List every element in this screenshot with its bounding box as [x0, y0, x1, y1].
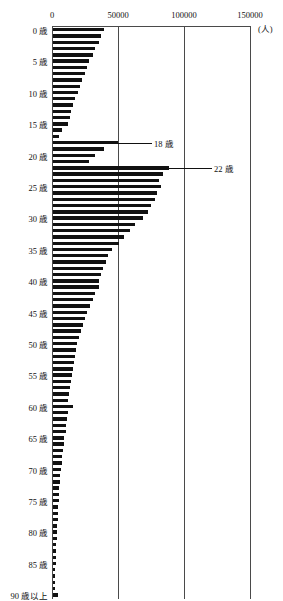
- bar: [53, 587, 55, 590]
- bar: [53, 116, 70, 119]
- bar: [53, 512, 58, 515]
- bar: [53, 204, 151, 207]
- bar: [53, 468, 61, 471]
- bar: [53, 430, 66, 433]
- annotation-leader-line: [168, 168, 212, 169]
- bar: [53, 254, 108, 257]
- bar: [53, 285, 99, 288]
- bar: [53, 260, 106, 263]
- bar: [53, 311, 87, 314]
- bar: [53, 223, 135, 226]
- bar: [53, 242, 119, 245]
- bar: [53, 317, 85, 320]
- unit-label: (人): [258, 22, 273, 34]
- bar: [53, 216, 143, 219]
- bar: [53, 191, 157, 194]
- bar: [53, 474, 60, 477]
- bar: [53, 336, 79, 339]
- bar: [53, 128, 62, 131]
- bar: [53, 323, 83, 326]
- gridline: [184, 26, 185, 599]
- bar: [53, 66, 87, 69]
- bar: [53, 549, 56, 552]
- bar: [53, 292, 95, 295]
- gridline: [250, 26, 251, 599]
- bar: [53, 59, 89, 62]
- bar: [53, 267, 103, 270]
- bar: [53, 122, 68, 125]
- bar: [53, 41, 99, 44]
- bar: [53, 581, 55, 584]
- y-axis-tick-label: 35 歳: [28, 244, 48, 256]
- bar: [53, 486, 59, 489]
- bar: [53, 367, 73, 370]
- bar: [53, 248, 112, 251]
- bar: [53, 499, 59, 502]
- bar: [53, 91, 78, 94]
- x-axis-tick-label: 0: [50, 10, 54, 20]
- y-axis-tick-label: 15 歳: [28, 118, 48, 130]
- bar: [53, 411, 68, 414]
- bar: [53, 210, 148, 213]
- bar: [53, 556, 56, 559]
- bar: [53, 562, 56, 565]
- bar: [53, 493, 59, 496]
- bar: [53, 461, 62, 464]
- bar: [53, 154, 95, 157]
- x-axis-line: [52, 26, 251, 27]
- bar: [53, 518, 58, 521]
- bar: [53, 417, 67, 420]
- y-axis-tick-label: 25 歳: [28, 181, 48, 193]
- annotation-label: 22 歳: [214, 162, 234, 174]
- y-axis-tick-label: 40 歳: [28, 275, 48, 287]
- y-axis-tick-label: 55 歳: [28, 369, 48, 381]
- bar: [53, 279, 99, 282]
- bar: [53, 399, 68, 402]
- bar: [53, 85, 80, 88]
- annotation-leader-line: [117, 143, 152, 144]
- bar: [53, 424, 66, 427]
- bar: [53, 436, 64, 439]
- bar: [53, 53, 93, 56]
- bar: [53, 135, 59, 138]
- bar: [53, 72, 85, 75]
- bar: [53, 348, 76, 351]
- bar: [53, 355, 75, 358]
- x-axis-tick-label: 150000: [237, 10, 263, 20]
- bar: [53, 342, 77, 345]
- bar: [53, 298, 93, 301]
- bar: [53, 405, 73, 408]
- bar: [53, 361, 74, 364]
- bar: [53, 392, 69, 395]
- y-axis-tick-label: 5 歳: [33, 55, 48, 67]
- y-axis-tick-label: 70 歳: [28, 464, 48, 476]
- bar: [53, 373, 72, 376]
- bar: [53, 574, 55, 577]
- bar: [53, 380, 71, 383]
- bar: [53, 235, 124, 238]
- bar: [53, 229, 130, 232]
- bar: [53, 198, 155, 201]
- y-axis-tick-label: 20 歳: [28, 150, 48, 162]
- bar: [53, 455, 62, 458]
- bar: [53, 47, 95, 50]
- bar: [53, 103, 73, 106]
- bar: [53, 185, 161, 188]
- bar: [53, 78, 82, 81]
- bar: [53, 160, 89, 163]
- bar: [53, 97, 75, 100]
- bar: [53, 329, 81, 332]
- bar: [53, 179, 159, 182]
- x-axis-tick-label: 50000: [107, 10, 128, 20]
- bar: [53, 386, 70, 389]
- y-axis-tick-label: 80 歳: [28, 526, 48, 538]
- bar: [53, 537, 57, 540]
- bar: [53, 172, 163, 175]
- y-axis-tick-label: 50 歳: [28, 338, 48, 350]
- bar: [53, 524, 57, 527]
- x-axis-tick-label: 100000: [171, 10, 197, 20]
- bar: [53, 543, 56, 546]
- bar: [53, 34, 101, 37]
- gridline: [118, 26, 119, 599]
